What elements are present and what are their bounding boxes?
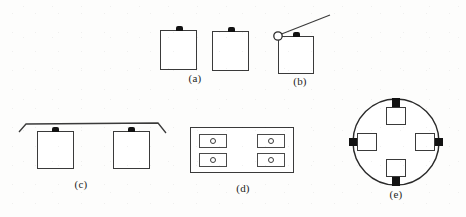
plate-c1 (37, 131, 74, 169)
plate-e-bottom (386, 159, 406, 177)
cell-bottom-right-dot-icon (268, 157, 274, 163)
panel-b (268, 14, 348, 76)
cell-top-left-dot-icon (210, 138, 216, 144)
caption-c: (c) (66, 178, 96, 190)
panel-c (18, 120, 168, 175)
figure-root: (a) (b) (c) (d) (0, 0, 466, 217)
cell-top-right-dot-icon (268, 138, 274, 144)
plate-a1-tab-icon (176, 26, 183, 31)
plate-e-left (357, 133, 377, 151)
plate-e-right (415, 133, 435, 151)
pivot-circle-icon (268, 14, 348, 76)
caption-a: (a) (180, 72, 210, 84)
panel-e (348, 97, 444, 189)
caption-e: (e) (381, 188, 411, 200)
plate-a1 (160, 30, 197, 70)
plate-a2-tab-icon (228, 27, 235, 32)
plate-a2 (212, 31, 249, 71)
caption-b: (b) (285, 75, 315, 87)
panel-d (190, 127, 295, 174)
plate-e-bottom-tab-icon (392, 176, 400, 186)
caption-d: (d) (228, 182, 258, 194)
cell-bottom-left-dot-icon (210, 157, 216, 163)
plate-c2 (113, 131, 150, 169)
plate-c2-tab-icon (128, 127, 135, 132)
plate-c1-tab-icon (52, 127, 59, 132)
plate-e-top (386, 107, 406, 125)
